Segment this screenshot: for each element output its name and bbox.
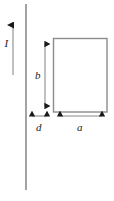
distance-label: d (36, 121, 42, 133)
loop-rectangle (54, 39, 108, 113)
wire-loop-diagram: I b d a (0, 0, 114, 201)
height-label: b (35, 69, 41, 81)
width-label: a (77, 121, 83, 133)
figure-canvas: I b d a (0, 0, 114, 201)
current-label: I (4, 37, 10, 49)
